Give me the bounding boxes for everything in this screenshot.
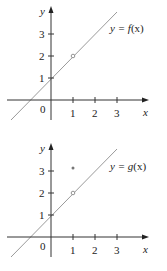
origin-label: 0 [40,240,46,252]
open-point-icon [71,54,75,58]
y-axis-label: y [39,142,45,154]
open-point-icon [71,191,75,195]
line-f [11,12,117,120]
function-label-g: y = g(x) [109,160,146,173]
x-tick-label-1: 1 [70,244,76,256]
y-tick-label-1: 1 [39,209,45,221]
y-axis-arrow-icon [49,143,54,150]
x-tick-label-3: 3 [114,244,120,256]
y-tick-label-2: 2 [39,50,45,62]
y-axis-arrow-icon [49,6,54,13]
graph-f: y x 0 1 2 3 1 2 3 y = f(x) [7,5,149,120]
x-tick-label-1: 1 [70,107,76,119]
x-axis-label: x [142,106,148,118]
x-tick-label-2: 2 [92,107,98,119]
x-tick-label-2: 2 [92,244,98,256]
y-tick-label-3: 3 [39,28,45,40]
y-tick-label-2: 2 [39,187,45,199]
x-axis-arrow-icon [142,98,149,103]
figure: y x 0 1 2 3 1 2 3 y = f(x) y x 0 1 2 3 1… [0,0,167,271]
function-label-f: y = f(x) [109,22,144,35]
origin-label: 0 [40,103,46,115]
line-g [11,149,117,257]
filled-point-icon [72,167,75,170]
x-axis-arrow-icon [142,235,149,240]
y-tick-label-3: 3 [39,165,45,177]
x-tick-label-3: 3 [114,107,120,119]
graph-g: y x 0 1 2 3 1 2 3 y = g(x) [7,142,149,257]
y-axis-label: y [39,5,45,17]
y-tick-label-1: 1 [39,72,45,84]
x-axis-label: x [142,243,148,255]
